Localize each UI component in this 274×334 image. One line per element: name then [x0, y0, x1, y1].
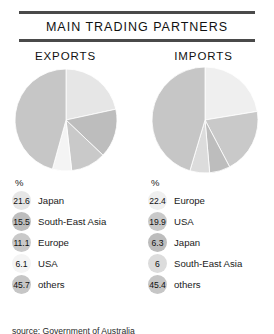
- legend-category-label: Europe: [38, 237, 69, 248]
- legend-row: 6.3Japan: [148, 232, 274, 253]
- exports-heading: EXPORTS: [0, 50, 137, 66]
- legend-category-label: South-East Asia: [38, 216, 106, 227]
- legend-value-badge: 45.7: [12, 275, 31, 294]
- legend-row: 6South-East Asia: [148, 253, 274, 274]
- legend-category-label: others: [174, 279, 201, 290]
- header-rule-bottom: [19, 39, 255, 42]
- imports-legend-list: 22.4Europe19.9USA6.3Japan6South-East Asi…: [148, 190, 274, 295]
- legend-row: 22.4Europe: [148, 190, 274, 211]
- legend-value-badge: 45.4: [148, 275, 167, 294]
- exports-column: EXPORTS % 21.6Japan15.5South-East Asia11…: [0, 50, 137, 295]
- source-note: source: Government of Australia: [12, 326, 135, 334]
- legend-row: 45.4others: [148, 274, 274, 295]
- imports-column: IMPORTS % 22.4Europe19.9USA6.3Japan6Sout…: [137, 50, 274, 295]
- exports-pie-wrap: [0, 66, 137, 174]
- legend-category-label: Japan: [174, 237, 200, 248]
- legend-category-label: USA: [38, 258, 58, 269]
- exports-pie-chart: [14, 68, 118, 172]
- legend-value-badge: 15.5: [12, 212, 31, 231]
- legend-value-badge: 22.4: [148, 191, 167, 210]
- legend-row: 15.5South-East Asia: [12, 211, 137, 232]
- legend-value-badge: 6.3: [148, 233, 167, 252]
- legend-value-badge: 6: [148, 254, 167, 273]
- pie-slice: [205, 67, 257, 120]
- page-title: MAIN TRADING PARTNERS: [19, 14, 255, 39]
- legend-category-label: Japan: [38, 195, 64, 206]
- legend-row: 11.1Europe: [12, 232, 137, 253]
- legend-row: 19.9USA: [148, 211, 274, 232]
- legend-category-label: Europe: [174, 195, 205, 206]
- charts-row: EXPORTS % 21.6Japan15.5South-East Asia11…: [0, 50, 274, 295]
- imports-pie-chart: [151, 66, 259, 174]
- infographic-panel: MAIN TRADING PARTNERS EXPORTS % 21.6Japa…: [0, 11, 274, 334]
- legend-value-badge: 21.6: [12, 191, 31, 210]
- legend-category-label: others: [38, 279, 65, 290]
- legend-category-label: South-East Asia: [174, 258, 242, 269]
- imports-pie-wrap: [137, 66, 274, 174]
- imports-percent-symbol: %: [148, 176, 274, 190]
- imports-heading: IMPORTS: [137, 50, 274, 66]
- imports-legend: % 22.4Europe19.9USA6.3Japan6South-East A…: [137, 174, 274, 295]
- legend-value-badge: 19.9: [148, 212, 167, 231]
- header: MAIN TRADING PARTNERS: [19, 11, 255, 42]
- exports-legend-list: 21.6Japan15.5South-East Asia11.1Europe6.…: [12, 190, 137, 295]
- exports-legend: % 21.6Japan15.5South-East Asia11.1Europe…: [0, 174, 137, 295]
- legend-value-badge: 11.1: [12, 233, 31, 252]
- legend-row: 6.1USA: [12, 253, 137, 274]
- legend-row: 45.7others: [12, 274, 137, 295]
- legend-row: 21.6Japan: [12, 190, 137, 211]
- legend-value-badge: 6.1: [12, 254, 31, 273]
- legend-category-label: USA: [174, 216, 194, 227]
- exports-percent-symbol: %: [12, 176, 137, 190]
